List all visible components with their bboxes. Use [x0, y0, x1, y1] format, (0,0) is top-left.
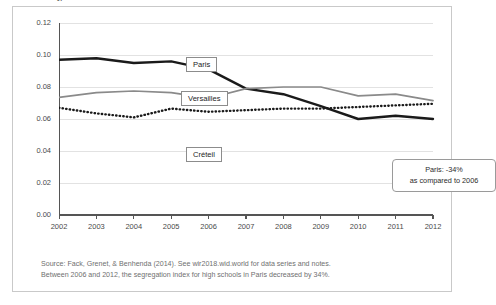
y-tick-label: 0.04: [25, 147, 51, 155]
note-finding: Between 2006 and 2012, the segregation i…: [41, 270, 441, 281]
y-tick-label: 0.00: [25, 211, 51, 219]
series-line-versailles: [59, 87, 433, 101]
x-tick-label: 2006: [194, 223, 224, 231]
figure-notes: Source: Fack, Grenet, & Benhenda (2014).…: [41, 259, 441, 282]
figure-frame: Segregation index in high schools Paris …: [12, 6, 452, 292]
x-tick-label: 2011: [381, 223, 411, 231]
y-tick-label: 0.12: [25, 19, 51, 27]
note-source: Source: Fack, Grenet, & Benhenda (2014).…: [41, 259, 441, 270]
annotation-line-2: as compared to 2006: [397, 176, 491, 187]
plot-area: Segregation index in high schools Paris …: [59, 19, 437, 241]
x-tick-label: 2010: [343, 223, 373, 231]
series-label-creteil: Créteil: [186, 147, 222, 162]
y-tick-label: 0.08: [25, 83, 51, 91]
annotation-paris-change: Paris: -34% as compared to 2006: [392, 159, 496, 192]
x-tick-label: 2005: [156, 223, 186, 231]
x-tick-label: 2012: [418, 223, 448, 231]
series-line-créteil: [59, 104, 433, 118]
x-tick-label: 2007: [231, 223, 261, 231]
x-tick-label: 2004: [119, 223, 149, 231]
x-tick-label: 2008: [268, 223, 298, 231]
x-tick-label: 2003: [81, 223, 111, 231]
y-tick-label: 0.02: [25, 179, 51, 187]
x-tick-label: 2002: [44, 223, 74, 231]
y-tick-label: 0.10: [25, 51, 51, 59]
series-label-versailles: Versailles: [181, 91, 228, 106]
series-label-paris: Paris: [186, 57, 217, 72]
annotation-line-1: Paris: -34%: [397, 165, 491, 176]
y-tick-label: 0.06: [25, 115, 51, 123]
x-tick-label: 2009: [306, 223, 336, 231]
chart-canvas: [59, 19, 437, 241]
